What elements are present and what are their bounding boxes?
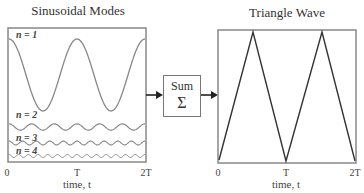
mode-label-n4: n = 4 xyxy=(16,145,37,156)
right-panel-title: Triangle Wave xyxy=(249,5,325,21)
triangle-wave xyxy=(219,32,355,161)
left-tick-2T: 2T xyxy=(140,167,151,178)
left-panel-title: Sinusoidal Modes xyxy=(31,3,125,19)
left-x-axis-label: time, t xyxy=(63,178,91,190)
left-tick-T: T xyxy=(74,167,80,178)
sigma-icon: Σ xyxy=(164,94,200,112)
right-x-axis-label: time, t xyxy=(272,178,300,190)
sum-label: Sum xyxy=(164,79,200,94)
right-tick-0: 0 xyxy=(216,167,221,178)
right-plot-frame xyxy=(218,30,356,163)
mode-1-wave xyxy=(9,39,145,111)
mode-2-wave xyxy=(9,124,145,130)
arrow-into-sum xyxy=(146,91,163,99)
right-tick-T: T xyxy=(283,167,289,178)
sum-block: Sum Σ xyxy=(163,75,201,117)
mode-label-n2: n = 2 xyxy=(16,109,37,120)
mode-label-n3: n = 3 xyxy=(16,132,37,143)
left-tick-0: 0 xyxy=(5,167,10,178)
arrow-out-of-sum xyxy=(200,91,218,99)
mode-label-n1: n = 1 xyxy=(16,29,37,40)
right-tick-2T: 2T xyxy=(349,167,360,178)
